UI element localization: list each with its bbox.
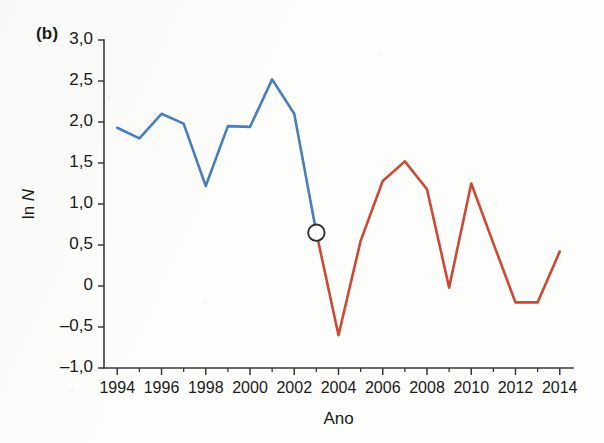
x-tick-label: 2010: [453, 379, 489, 396]
x-tick-label: 2014: [542, 379, 578, 396]
y-tick-label: 1,0: [69, 193, 93, 212]
transition-point-marker: [308, 225, 324, 241]
y-axis-title: ln N: [19, 188, 38, 219]
y-axis-tick-labels: –1,0–0,500,51,01,52,02,53,0: [60, 29, 93, 376]
x-tick-label: 2006: [365, 379, 401, 396]
x-tick-label: 2004: [321, 379, 357, 396]
series-line-red: [316, 161, 559, 335]
x-tick-label: 2000: [232, 379, 268, 396]
figure-panel: (b) –1,0–0,500,51,01,52,02,53,0 19941996…: [0, 0, 604, 443]
x-axis-tick-labels: 1994199619982000200220042006200820102012…: [99, 379, 577, 396]
y-tick-label: 2,0: [69, 111, 93, 130]
x-tick-label: 2002: [276, 379, 312, 396]
x-tick-label: 1996: [144, 379, 180, 396]
y-tick-label: 2,5: [69, 70, 93, 89]
y-tick-label: 0: [84, 275, 93, 294]
y-tick-label: –1,0: [60, 357, 93, 376]
x-tick-label: 1998: [188, 379, 224, 396]
x-tick-label: 2012: [498, 379, 534, 396]
x-axis-title: Ano: [323, 409, 353, 428]
y-axis-ticks: [98, 40, 104, 368]
x-tick-label: 2008: [409, 379, 445, 396]
x-tick-label: 1994: [99, 379, 135, 396]
y-tick-label: 1,5: [69, 152, 93, 171]
line-chart: –1,0–0,500,51,01,52,02,53,0 199419961998…: [0, 0, 604, 443]
y-tick-label: –0,5: [60, 316, 93, 335]
y-tick-label: 3,0: [69, 29, 93, 48]
series-line-blue: [117, 79, 316, 232]
y-tick-label: 0,5: [69, 234, 93, 253]
